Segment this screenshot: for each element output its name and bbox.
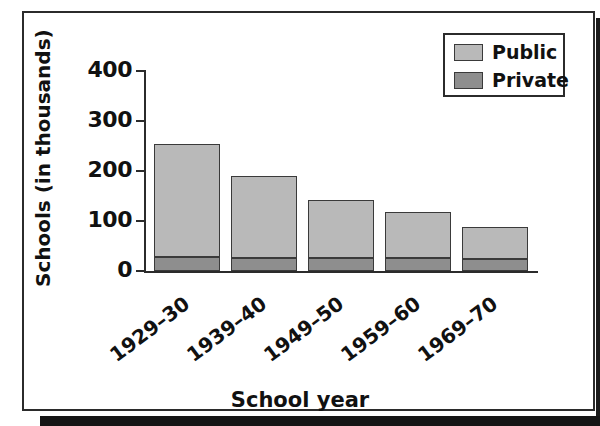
y-axis-tick-mark	[136, 220, 145, 222]
legend-item-public: Public	[454, 41, 557, 63]
bar-segment-private	[231, 258, 297, 272]
legend-box: Public Private	[443, 33, 565, 97]
legend-item-private: Private	[454, 69, 569, 91]
scan-artifact-bottom-edge	[40, 416, 600, 426]
legend-label-private: Private	[492, 71, 569, 90]
legend-label-public: Public	[492, 43, 557, 62]
y-axis-tick-label-text: 300	[52, 109, 132, 131]
bar-1929-30	[154, 144, 220, 272]
bar-1969-70	[462, 227, 528, 272]
y-axis-tick-label-text: 100	[52, 209, 132, 231]
bar-segment-public	[385, 212, 451, 258]
dark-gray-swatch-icon	[454, 72, 483, 89]
bar-segment-private	[308, 258, 374, 272]
y-axis-tick-label: 400	[52, 59, 132, 81]
scan-artifact-right-edge	[596, 18, 600, 422]
bar-segment-private	[385, 258, 451, 272]
bar-segment-public	[231, 176, 297, 258]
y-axis-tick-label: 300	[52, 109, 132, 131]
bar-1959-60	[385, 212, 451, 272]
x-axis-title: School year	[0, 388, 600, 412]
y-axis-tick-label-text: 200	[52, 159, 132, 181]
y-axis-tick-label: 200	[52, 159, 132, 181]
y-axis-tick-label-text: 0	[52, 259, 132, 281]
bar-1939-40	[231, 176, 297, 271]
y-axis-tick-mark	[136, 120, 145, 122]
y-axis-tick-label-text: 400	[52, 59, 132, 81]
bar-segment-public	[462, 227, 528, 259]
light-gray-swatch-icon	[454, 44, 483, 61]
y-axis-tick-mark	[136, 170, 145, 172]
bar-segment-public	[308, 200, 374, 258]
y-axis-tick-label: 0	[52, 259, 132, 281]
bar-segment-private	[462, 259, 528, 272]
bar-segment-private	[154, 257, 220, 271]
bar-1949-50	[308, 200, 374, 271]
y-axis-tick-label: 100	[52, 209, 132, 231]
x-axis-line	[144, 271, 538, 273]
bar-segment-public	[154, 144, 220, 258]
chart-page: Schools (in thousands) 0100200300400 192…	[0, 0, 600, 426]
y-axis-tick-mark	[136, 70, 145, 72]
y-axis-tick-mark	[136, 270, 145, 272]
